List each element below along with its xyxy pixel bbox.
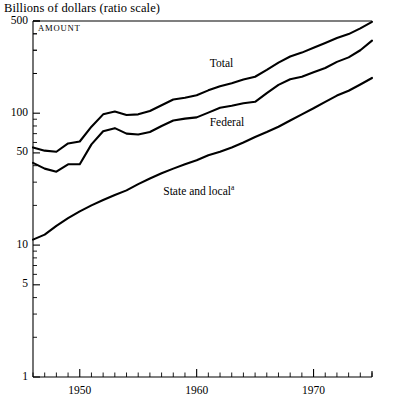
series-label-total: Total: [210, 57, 233, 69]
chart-container: Billions of dollars (ratio scale) AMOUNT…: [0, 0, 394, 399]
y-axis-tick-label: 500: [11, 14, 28, 26]
x-axis-tick-label: 1950: [68, 384, 91, 396]
y-axis-tick-label: 10: [17, 238, 29, 250]
y-axis-tick-label: 5: [22, 277, 28, 289]
y-axis-tick-label: 1: [22, 370, 28, 382]
chart-plot-area: [0, 0, 394, 399]
y-axis-tick-label: 50: [17, 145, 29, 157]
series-label-state-and-local: State and locala: [163, 183, 234, 197]
x-axis-tick-label: 1970: [302, 384, 325, 396]
y-axis-tick-label: 100: [11, 106, 28, 118]
footnote-marker: a: [231, 183, 234, 192]
x-axis-tick-label: 1960: [185, 384, 208, 396]
series-label-federal: Federal: [210, 116, 244, 128]
